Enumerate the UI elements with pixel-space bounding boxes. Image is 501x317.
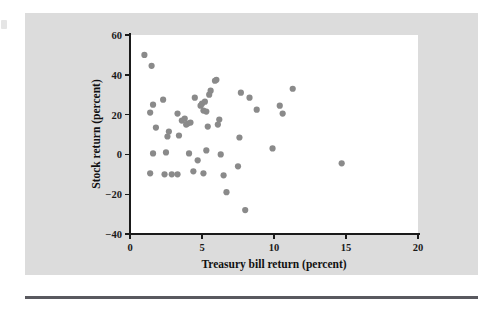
data-point bbox=[200, 170, 206, 176]
data-point bbox=[202, 99, 208, 105]
data-point bbox=[215, 121, 221, 127]
x-axis-tick-label: 5 bbox=[199, 242, 204, 253]
data-point bbox=[221, 172, 227, 178]
data-point bbox=[147, 110, 153, 116]
data-point bbox=[141, 52, 147, 58]
data-point bbox=[161, 171, 167, 177]
data-point bbox=[242, 207, 248, 213]
data-point bbox=[205, 123, 211, 129]
y-axis-tick-label: 20 bbox=[82, 109, 122, 120]
data-point bbox=[169, 171, 175, 177]
data-point bbox=[190, 168, 196, 174]
data-points-group bbox=[141, 52, 344, 213]
data-point bbox=[187, 119, 193, 125]
data-point bbox=[150, 150, 156, 156]
data-point bbox=[192, 95, 198, 101]
y-axis-tick-label: 60 bbox=[82, 30, 122, 41]
data-point bbox=[280, 111, 286, 117]
data-point bbox=[163, 149, 169, 155]
data-point bbox=[218, 151, 224, 157]
y-axis-tick-label: −20 bbox=[82, 189, 122, 200]
data-point bbox=[235, 163, 241, 169]
x-axis-tick-label: 0 bbox=[127, 242, 132, 253]
y-axis-title: Stock return (percent) bbox=[90, 34, 102, 234]
data-point bbox=[213, 77, 219, 83]
data-point bbox=[147, 170, 153, 176]
data-point bbox=[277, 103, 283, 109]
x-axis-title: Treasury bill return (percent) bbox=[130, 258, 418, 270]
bottom-horizontal-rule bbox=[25, 296, 478, 299]
data-point bbox=[339, 160, 345, 166]
data-point bbox=[149, 63, 155, 69]
data-point bbox=[246, 95, 252, 101]
x-axis-tick-label: 20 bbox=[413, 242, 424, 253]
data-point bbox=[176, 132, 182, 138]
y-axis-tick-label: 40 bbox=[82, 69, 122, 80]
data-point bbox=[153, 124, 159, 130]
axes-group bbox=[130, 33, 420, 234]
data-point bbox=[208, 88, 214, 94]
data-point bbox=[174, 171, 180, 177]
data-point bbox=[166, 128, 172, 134]
data-point bbox=[195, 157, 201, 163]
y-axis-tick-label: −40 bbox=[82, 229, 122, 240]
data-point bbox=[160, 97, 166, 103]
data-point bbox=[238, 90, 244, 96]
data-point bbox=[203, 147, 209, 153]
x-axis-tick-label: 15 bbox=[341, 242, 352, 253]
data-point bbox=[150, 102, 156, 108]
y-axis-tick-label: 0 bbox=[82, 149, 122, 160]
data-point bbox=[203, 109, 209, 115]
data-point bbox=[174, 111, 180, 117]
figure-root: −40−20020406005101520 Treasury bill retu… bbox=[0, 0, 501, 317]
data-point bbox=[236, 134, 242, 140]
data-point bbox=[186, 150, 192, 156]
data-point bbox=[269, 145, 275, 151]
x-axis-tick-label: 10 bbox=[269, 242, 280, 253]
data-point bbox=[223, 189, 229, 195]
data-point bbox=[290, 86, 296, 92]
data-point bbox=[254, 107, 260, 113]
